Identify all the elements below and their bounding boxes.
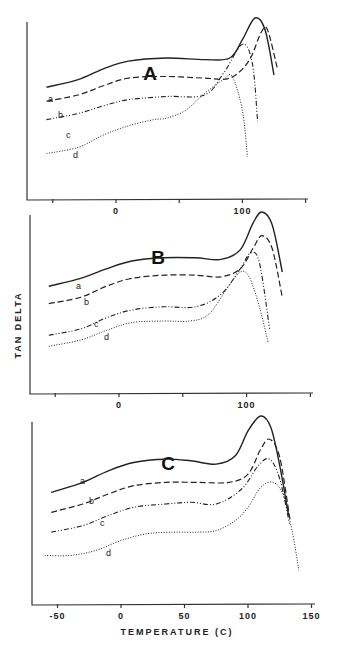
figure-canvas: 0100Aabcd0100Babcd-50050100150Cabcd xyxy=(0,0,337,649)
series-label-d: d xyxy=(106,548,111,558)
panel-title: C xyxy=(161,453,175,474)
series-label-c: c xyxy=(94,319,99,329)
axis-lines xyxy=(32,422,315,605)
y-axis-label: TAN DELTA xyxy=(13,285,27,365)
x-tick-label: 150 xyxy=(302,611,320,621)
series-d-curve xyxy=(49,271,268,346)
x-tick-label: 100 xyxy=(238,400,256,410)
axis-lines xyxy=(27,22,308,200)
series-b-curve xyxy=(51,439,290,519)
series-d-curve xyxy=(47,74,248,156)
panel-title: A xyxy=(143,63,157,84)
series-label-d: d xyxy=(73,150,78,160)
panel-c: -50050100150Cabcd xyxy=(32,416,321,621)
x-tick-label: 100 xyxy=(239,611,257,621)
x-tick-label: 100 xyxy=(233,206,251,216)
series-label-b: b xyxy=(89,496,94,506)
series-label-c: c xyxy=(100,518,105,528)
series-label-d: d xyxy=(104,332,109,342)
x-tick-label: -50 xyxy=(49,611,65,621)
x-tick-label: 0 xyxy=(118,611,124,621)
x-axis-label: TEMPERATURE (C) xyxy=(112,627,242,641)
series-label-a: a xyxy=(76,281,81,291)
panel-a: 0100Aabcd xyxy=(27,18,308,216)
series-b-curve xyxy=(49,236,282,304)
series-label-a: a xyxy=(48,94,53,104)
x-tick-label: 0 xyxy=(116,400,122,410)
series-label-a: a xyxy=(80,476,85,486)
x-tick-label: 50 xyxy=(178,611,190,621)
panel-b: 0100Babcd xyxy=(30,212,313,410)
series-label-c: c xyxy=(66,130,71,140)
series-d-curve xyxy=(45,482,299,570)
series-label-b: b xyxy=(84,297,89,307)
x-tick-label: 0 xyxy=(113,206,119,216)
axis-lines xyxy=(30,215,313,394)
series-label-b: b xyxy=(58,110,63,120)
